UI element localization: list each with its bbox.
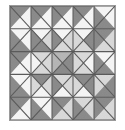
- quilt-block-frame: [9, 5, 116, 121]
- quilt-pattern: [10, 6, 115, 120]
- screenshot-root: [0, 0, 125, 130]
